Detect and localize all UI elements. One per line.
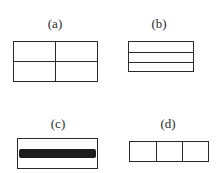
figure-d-rectangle bbox=[129, 141, 209, 162]
figure-d-divider-left bbox=[156, 142, 157, 161]
figure-b-divider-upper bbox=[129, 52, 193, 53]
figure-c-label: (c) bbox=[38, 117, 78, 130]
figure-d-label: (d) bbox=[148, 117, 188, 130]
figure-b-divider-lower bbox=[129, 62, 193, 63]
figure-c-rectangle bbox=[17, 138, 98, 169]
figure-c-dark-band bbox=[19, 149, 96, 158]
figure-b-rectangle bbox=[128, 41, 194, 72]
figure-a-label: (a) bbox=[35, 17, 75, 30]
figure-a-rectangle bbox=[13, 41, 98, 82]
figure-b-label: (b) bbox=[139, 17, 179, 30]
figure-d-divider-right bbox=[182, 142, 183, 161]
figure-a-vertical-divider bbox=[55, 42, 56, 81]
